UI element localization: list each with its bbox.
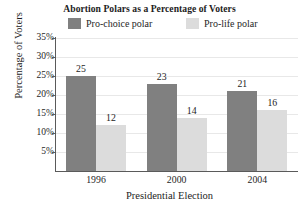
gridline	[56, 38, 298, 39]
bar-value-label: 14	[172, 105, 212, 116]
bar-value-label: 25	[61, 63, 101, 74]
bar	[66, 76, 96, 171]
bar	[257, 110, 287, 171]
legend-swatch-pro-life	[186, 18, 199, 29]
bar-chart-figure: Abortion Polars as a Percentage of Voter…	[0, 0, 299, 208]
x-axis-line	[55, 171, 298, 172]
x-axis-title: Presidential Election	[40, 190, 299, 201]
plot-area: 251223142116	[56, 38, 298, 171]
x-axis-tick-label: 1996	[69, 174, 123, 185]
y-axis-tick-labels: 35%30%25%20%15%10%5%	[20, 38, 54, 171]
x-axis-tick-label: 2004	[230, 174, 284, 185]
y-axis-tick-label: 25%	[26, 70, 54, 80]
y-axis-tick-label: 30%	[26, 51, 54, 61]
y-axis-tick-label: 15%	[26, 108, 54, 118]
gridline	[56, 57, 298, 58]
chart-title: Abortion Polars as a Percentage of Voter…	[0, 3, 299, 14]
chart-legend: Pro-choice polar Pro-life polar	[62, 16, 290, 30]
bar-value-label: 23	[142, 71, 182, 82]
legend-entry-pro-life: Pro-life polar	[186, 16, 258, 30]
y-axis-tick-label: 10%	[26, 127, 54, 137]
bar	[177, 118, 207, 171]
y-axis-tick-label: 35%	[26, 32, 54, 42]
bar	[96, 125, 126, 171]
y-axis-tick-label: 20%	[26, 89, 54, 99]
legend-label-pro-choice: Pro-choice polar	[86, 18, 152, 29]
bar-value-label: 21	[222, 78, 262, 89]
y-axis-line	[55, 37, 56, 172]
bar	[147, 84, 177, 171]
x-axis-tick-label: 2000	[150, 174, 204, 185]
legend-entry-pro-choice: Pro-choice polar	[68, 16, 152, 30]
bar-value-label: 16	[252, 97, 292, 108]
y-axis-tick-label: 5%	[26, 146, 54, 156]
bar-value-label: 12	[91, 112, 131, 123]
x-axis-tick-labels: 199620002004	[56, 174, 298, 187]
legend-label-pro-life: Pro-life polar	[204, 18, 258, 29]
legend-swatch-pro-choice	[68, 18, 81, 29]
